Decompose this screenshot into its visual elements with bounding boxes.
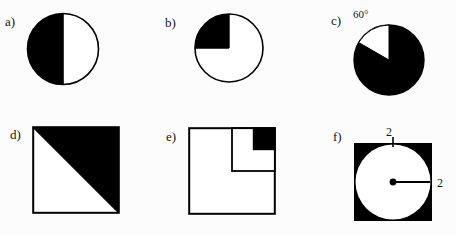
radius-dimension-label: 2: [437, 177, 443, 189]
figure-f-inscribed-circle: [354, 143, 432, 221]
figure-a-svg: [26, 12, 100, 86]
figure-e-svg: [188, 127, 276, 215]
figure-c-svg: [353, 24, 425, 96]
figure-e-nested-squares: [188, 127, 276, 215]
shaded-upper-left-quarter: [195, 14, 229, 48]
figure-f-svg: [354, 143, 432, 221]
figure-a-half-circle: [26, 12, 100, 86]
center-dot: [390, 179, 397, 186]
figure-label-c: c): [331, 14, 341, 27]
figure-d-svg: [32, 126, 120, 214]
top-side-dimension-label: 2: [386, 126, 392, 138]
figure-label-e: e): [166, 130, 176, 143]
figure-d-half-square: [32, 126, 120, 214]
figure-label-b: b): [165, 16, 176, 29]
shaded-small-square: [253, 128, 274, 149]
figure-label-f: f): [333, 130, 342, 143]
figure-sheet: a) b) c) 60° d) e): [0, 0, 456, 235]
figure-label-d: d): [10, 128, 21, 141]
figure-b-quarter-circle: [194, 13, 264, 83]
shaded-left-half: [28, 14, 64, 85]
sector-angle-label: 60°: [353, 9, 368, 20]
figure-b-svg: [194, 13, 264, 83]
figure-label-a: a): [5, 15, 15, 28]
figure-c-sector-circle: [353, 24, 425, 96]
